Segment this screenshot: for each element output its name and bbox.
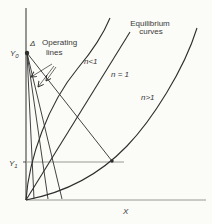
diagram-figure: Equilibrium curves Operating lines n<1 n…: [0, 0, 212, 224]
diagram-canvas: Equilibrium curves Operating lines n<1 n…: [0, 0, 212, 224]
operating-lines-arrow-1: [31, 64, 52, 77]
difference-point-label: Δ: [29, 39, 35, 48]
n-less-than-1-label: n<1: [84, 57, 98, 66]
operating-lines-label-line2: lines: [46, 48, 62, 57]
plot-geometry: [23, 8, 206, 200]
n-greater-than-1-label: n>1: [141, 93, 155, 102]
equilibrium-curves-label-line2: curves: [139, 27, 163, 36]
y1-intersection-marker: [110, 159, 113, 162]
x-axis-label: X: [122, 207, 129, 216]
n-equals-1-label: n = 1: [111, 70, 129, 79]
y1-axis-label: Y1: [9, 159, 18, 169]
y0-axis-label: Y0: [10, 49, 19, 59]
equilibrium-curve-n-eq-1: [26, 32, 130, 200]
operating-lines-label-line1: Operating: [42, 38, 77, 47]
difference-point-marker: [25, 51, 29, 55]
